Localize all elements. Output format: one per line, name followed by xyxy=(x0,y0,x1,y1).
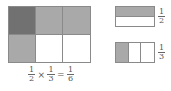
third-unshaded-part xyxy=(141,43,154,62)
third-unshaded-part xyxy=(129,43,142,62)
times-sign: × xyxy=(38,70,46,80)
fraction-one-half: 1 2 xyxy=(28,66,35,83)
cell-half-shaded xyxy=(36,7,63,35)
denominator: 2 xyxy=(159,17,164,25)
cell-unshaded xyxy=(63,35,90,63)
multiplication-formula: 1 2 × 1 3 = 1 6 xyxy=(28,66,74,83)
denominator: 3 xyxy=(48,75,53,83)
third-model xyxy=(115,42,155,63)
fraction-one-third: 1 3 xyxy=(47,66,54,83)
denominator: 6 xyxy=(68,75,73,83)
cell-overlap xyxy=(9,7,36,35)
cell-half-shaded xyxy=(63,7,90,35)
fraction-one-sixth: 1 6 xyxy=(67,66,74,83)
third-label: 1 3 xyxy=(158,44,165,61)
half-unshaded-part xyxy=(116,17,154,27)
denominator: 3 xyxy=(159,53,164,61)
denominator: 2 xyxy=(29,75,34,83)
half-label: 1 2 xyxy=(158,8,165,25)
third-shaded-part xyxy=(116,43,129,62)
equals-sign: = xyxy=(57,70,65,80)
cell-third-shaded xyxy=(9,35,36,63)
cell-unshaded xyxy=(36,35,63,63)
half-model xyxy=(115,6,155,27)
area-model-grid xyxy=(8,6,91,63)
half-shaded-part xyxy=(116,7,154,17)
